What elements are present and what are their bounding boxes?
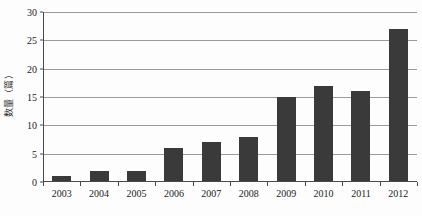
x-axis-tick-mark: [118, 182, 119, 186]
bar-chart-figure: 数量（篇） 051015202530 200320042005200620072…: [0, 0, 422, 216]
bar-slot: [305, 12, 342, 182]
bar-2011: [351, 91, 370, 182]
bar-slot: [267, 12, 304, 182]
y-axis-tick-label: 25: [27, 35, 37, 46]
x-axis-tick-mark: [230, 182, 231, 186]
x-axis-tick-label: 2006: [155, 188, 192, 208]
x-axis-tick-label: 2007: [193, 188, 230, 208]
bar-2009: [277, 97, 296, 182]
x-axis-tick-label: 2009: [267, 188, 304, 208]
bar-slot: [80, 12, 117, 182]
x-axis-tick-label: 2011: [342, 188, 379, 208]
bar-slot: [155, 12, 192, 182]
bars-layer: [43, 12, 417, 182]
x-axis-tick-label: 2005: [118, 188, 155, 208]
x-axis-tick-mark: [155, 182, 156, 186]
x-axis-tick-mark: [43, 182, 44, 186]
bar-slot: [118, 12, 155, 182]
bar-slot: [230, 12, 267, 182]
bar-2010: [314, 86, 333, 182]
bar-slot: [342, 12, 379, 182]
y-axis-tick-label: 10: [27, 120, 37, 131]
x-axis-tick-mark: [267, 182, 268, 186]
bar-2006: [164, 148, 183, 182]
y-axis-tick-labels: 051015202530: [18, 0, 40, 186]
x-axis-tick-mark: [417, 182, 418, 186]
y-axis-tick-label: 20: [27, 63, 37, 74]
y-axis-title: 数量（篇）: [0, 0, 18, 186]
x-axis-tick-marks: [43, 182, 417, 187]
bar-slot: [380, 12, 417, 182]
x-axis-tick-mark: [380, 182, 381, 186]
x-axis-tick-label: 2010: [305, 188, 342, 208]
x-axis-tick-mark: [305, 182, 306, 186]
x-axis-tick-label: 2008: [230, 188, 267, 208]
x-axis-tick-mark: [193, 182, 194, 186]
y-axis-tick-label: 5: [32, 148, 37, 159]
bar-slot: [193, 12, 230, 182]
x-axis-tick-label: 2003: [43, 188, 80, 208]
bar-2012: [389, 29, 408, 182]
x-axis-tick-mark: [80, 182, 81, 186]
plot-area: [43, 12, 417, 182]
y-axis-tick-label: 15: [27, 92, 37, 103]
y-axis-title-label: 数量（篇）: [3, 69, 16, 117]
bar-2008: [239, 137, 258, 182]
x-axis-tick-label: 2012: [380, 188, 417, 208]
y-axis-tick-label: 0: [32, 177, 37, 188]
bar-slot: [43, 12, 80, 182]
x-axis-tick-labels: 2003200420052006200720082009201020112012: [43, 188, 417, 208]
x-axis-tick-label: 2004: [80, 188, 117, 208]
y-axis-tick-label: 30: [27, 7, 37, 18]
x-axis-tick-mark: [342, 182, 343, 186]
bar-2007: [202, 142, 221, 182]
